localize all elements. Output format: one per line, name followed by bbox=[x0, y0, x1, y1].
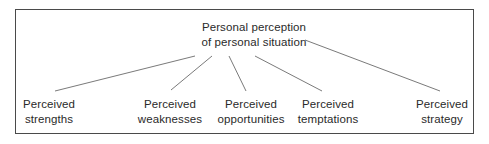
leaf-label-line1: Perceived bbox=[23, 97, 75, 112]
leaf-label-line1: Perceived bbox=[416, 97, 468, 112]
connector-opportunities bbox=[229, 56, 246, 91]
connector-temptations bbox=[255, 56, 322, 91]
leaf-node-weaknesses: Perceived weaknesses bbox=[138, 97, 202, 126]
leaf-node-strategy: Perceived strategy bbox=[416, 97, 468, 126]
leaf-label-line1: Perceived bbox=[138, 97, 202, 112]
leaf-label-line1: Perceived bbox=[298, 97, 359, 112]
leaf-label-line2: strengths bbox=[23, 112, 75, 127]
root-node-personal-perception: Personal perception of personal situatio… bbox=[201, 20, 306, 49]
leaf-node-strengths: Perceived strengths bbox=[23, 97, 75, 126]
leaf-label-line2: opportunities bbox=[217, 112, 284, 127]
connector-strategy bbox=[305, 40, 440, 91]
leaf-label-line1: Perceived bbox=[217, 97, 284, 112]
leaf-label-line2: strategy bbox=[416, 112, 468, 127]
leaf-label-line2: weaknesses bbox=[138, 112, 202, 127]
root-label-line1: Personal perception bbox=[201, 20, 306, 35]
leaf-node-temptations: Perceived temptations bbox=[298, 97, 359, 126]
connector-strengths bbox=[55, 56, 195, 91]
connector-weaknesses bbox=[171, 56, 212, 90]
leaf-label-line2: temptations bbox=[298, 112, 359, 127]
root-label-line2: of personal situation bbox=[201, 35, 306, 50]
leaf-node-opportunities: Perceived opportunities bbox=[217, 97, 284, 126]
